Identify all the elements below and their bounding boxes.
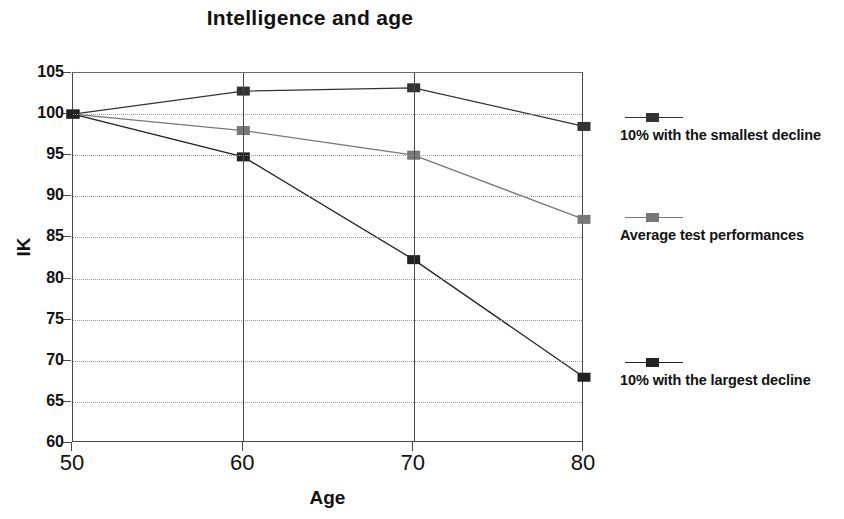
legend-swatch-icon: [625, 112, 683, 124]
y-gridline: [73, 320, 582, 321]
y-tick-label: 60: [22, 433, 64, 451]
legend-entry[interactable]: 10% with the largest decline: [620, 357, 844, 388]
series-line: [73, 114, 584, 219]
y-gridline: [73, 155, 582, 156]
y-gridline: [73, 114, 582, 115]
legend-marker-icon: [646, 113, 659, 122]
data-series: [67, 110, 591, 224]
legend-swatch-icon: [625, 212, 683, 224]
y-axis-title: IK: [13, 217, 35, 277]
legend-marker-icon: [646, 358, 659, 367]
y-tick-label: 100: [22, 104, 64, 122]
data-series: [67, 110, 591, 382]
data-point-marker: [578, 373, 591, 382]
chart-figure: Intelligence and age 6065707580859095100…: [0, 0, 844, 519]
legend-entry[interactable]: Average test performances: [620, 212, 844, 243]
x-tick-label: 80: [543, 450, 623, 476]
legend-label: Average test performances: [620, 227, 844, 243]
legend-marker-icon: [646, 213, 659, 222]
y-tick-label: 75: [22, 310, 64, 328]
series-layer: [73, 73, 584, 443]
x-gridline: [243, 73, 244, 441]
y-gridline: [73, 402, 582, 403]
x-axis-tick-labels: 50607080: [72, 450, 583, 484]
x-tick-mark: [242, 442, 243, 451]
legend-label: 10% with the largest decline: [620, 372, 844, 388]
y-tick-label: 95: [22, 145, 64, 163]
chart-title: Intelligence and age: [0, 6, 620, 30]
x-tick-label: 70: [373, 450, 453, 476]
y-gridline: [73, 361, 582, 362]
y-tick-label: 65: [22, 392, 64, 410]
x-tick-mark: [582, 442, 583, 451]
y-tick-label: 105: [22, 63, 64, 81]
data-series: [67, 83, 591, 131]
x-gridline: [414, 73, 415, 441]
y-tick-label: 90: [22, 186, 64, 204]
x-tick-label: 60: [202, 450, 282, 476]
series-line: [73, 114, 584, 377]
chart-legend: 10% with the smallest declineAverage tes…: [620, 72, 844, 442]
series-line: [73, 88, 584, 127]
data-point-marker: [578, 215, 591, 224]
data-point-marker: [578, 122, 591, 131]
plot-area: [72, 72, 583, 442]
y-gridline: [73, 237, 582, 238]
legend-entry[interactable]: 10% with the smallest decline: [620, 112, 844, 143]
y-gridline: [73, 196, 582, 197]
legend-swatch-icon: [625, 357, 683, 369]
x-axis-title: Age: [72, 487, 583, 509]
x-tick-mark: [412, 442, 413, 451]
y-gridline: [73, 279, 582, 280]
x-tick-mark: [71, 442, 72, 451]
legend-label: 10% with the smallest decline: [620, 127, 844, 143]
y-tick-label: 70: [22, 351, 64, 369]
x-tick-label: 50: [32, 450, 112, 476]
